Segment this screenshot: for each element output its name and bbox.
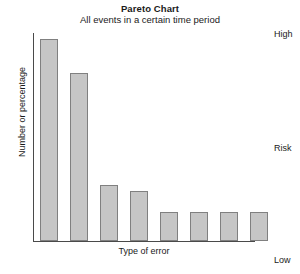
- risk-scale-high-label: High: [274, 29, 293, 40]
- x-axis-title: Type of error: [33, 246, 255, 257]
- chart-subtitle: All events in a certain time period: [0, 14, 300, 26]
- risk-scale-middle-label: Risk: [274, 143, 292, 154]
- bar: [220, 212, 238, 241]
- y-axis-title: Number or percentage: [17, 47, 27, 177]
- bar: [250, 212, 268, 241]
- bar: [70, 73, 88, 241]
- bar: [130, 191, 148, 241]
- x-axis-line: [33, 241, 255, 242]
- bar: [160, 212, 178, 241]
- bar: [190, 212, 208, 241]
- risk-scale-low-label: Low: [274, 255, 291, 266]
- bar: [100, 185, 118, 241]
- bar: [40, 39, 58, 241]
- pareto-chart: Pareto Chart All events in a certain tim…: [0, 0, 300, 274]
- chart-title: Pareto Chart: [0, 3, 300, 14]
- plot-area: [34, 33, 255, 241]
